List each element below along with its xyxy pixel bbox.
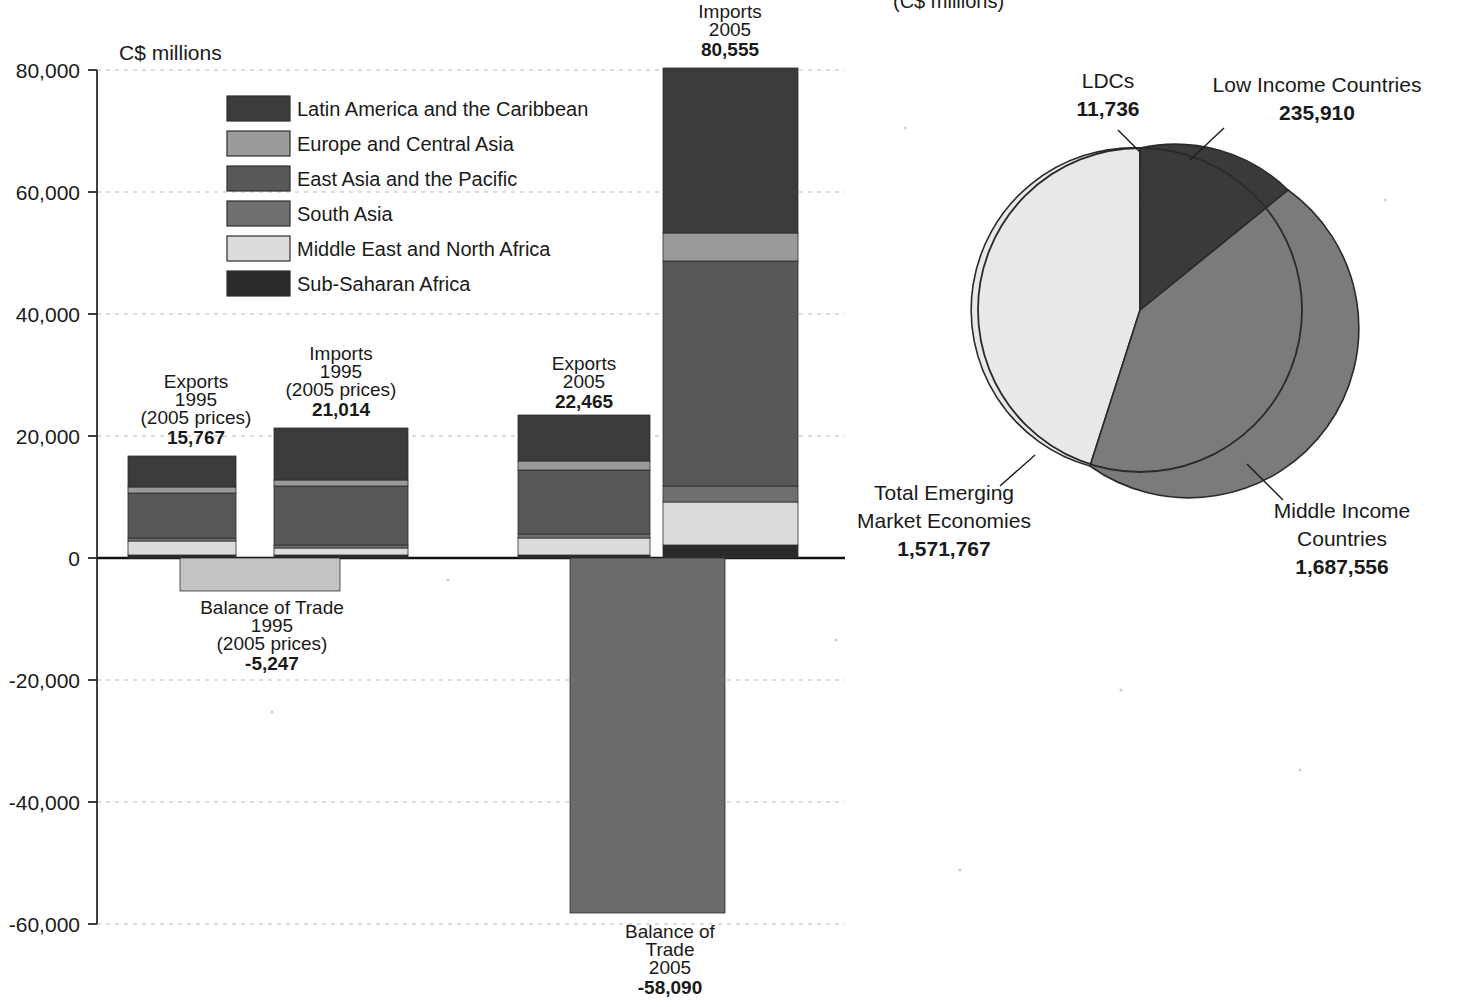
y-tick-neg20000: -20,000 <box>9 669 80 692</box>
bar-segment-south-asia <box>518 534 650 538</box>
y-tick-20000: 20,000 <box>16 425 80 448</box>
legend-swatch-middle-east-north-africa <box>227 236 290 261</box>
legend-swatch-europe-central-asia <box>227 131 290 156</box>
bar-segment-middle-east-north-africa <box>128 541 236 555</box>
bar-imports-2005[interactable]: Imports 2005 80,555 <box>663 1 798 558</box>
legend-swatch-sub-saharan-africa <box>227 271 290 296</box>
bar-segment-south-asia <box>128 538 236 541</box>
pie-label-middle-income-line2: Countries <box>1297 527 1387 550</box>
legend-item-sub-saharan-africa[interactable]: Sub-Saharan Africa <box>227 271 471 296</box>
legend-label-latin-america: Latin America and the Caribbean <box>297 98 588 120</box>
bar-net-balance-2005 <box>570 558 725 913</box>
bar-value-imports-1995: 21,014 <box>312 399 371 420</box>
bar-segment-europe-central-asia <box>274 480 408 486</box>
pie-label-ldcs-name: LDCs <box>1082 69 1135 92</box>
pie-unit-label: (C$ millions) <box>893 0 1004 12</box>
pie-label-ldcs-value: 11,736 <box>1076 97 1139 120</box>
bar-segment-europe-central-asia <box>663 233 798 261</box>
y-tick-0: 0 <box>68 547 80 570</box>
pie-label-total-emerging-value: 1,571,767 <box>897 537 990 560</box>
pie-label-middle-income-line1: Middle Income <box>1274 499 1411 522</box>
y-axis-unit-label: C$ millions <box>119 41 222 64</box>
y-tick-labels: 80,000 60,000 40,000 20,000 0 -20,000 -4… <box>9 59 80 936</box>
bar-value-imports-2005: 80,555 <box>701 39 760 60</box>
y-tick-neg40000: -40,000 <box>9 791 80 814</box>
bar-segment-sub-saharan-africa <box>274 555 408 558</box>
legend-label-middle-east-north-africa: Middle East and North Africa <box>297 238 551 260</box>
pie-label-middle-income-value: 1,687,556 <box>1295 555 1388 578</box>
bar-segment-sub-saharan-africa <box>128 555 236 558</box>
pie-chart[interactable] <box>971 144 1359 498</box>
bar-segment-middle-east-north-africa <box>274 548 408 555</box>
pie-label-total-emerging-line1: Total Emerging <box>874 481 1014 504</box>
pie-label-total-emerging-line2: Market Economies <box>857 509 1031 532</box>
bar-label-exports-1995-line3: (2005 prices) <box>141 407 252 428</box>
bar-segment-east-asia-pacific <box>274 486 408 545</box>
bar-segment-east-asia-pacific <box>128 493 236 538</box>
legend-label-east-asia-pacific: East Asia and the Pacific <box>297 168 517 190</box>
bar-segment-latin-america <box>128 456 236 487</box>
bar-net-balance-1995 <box>180 558 340 591</box>
y-tick-80000: 80,000 <box>16 59 80 82</box>
legend-swatch-east-asia-pacific <box>227 166 290 191</box>
bar-segment-south-asia <box>663 486 798 502</box>
bar-value-exports-2005: 22,465 <box>555 391 614 412</box>
bar-label-imports-1995-line3: (2005 prices) <box>286 379 397 400</box>
pie-label-ldcs: LDCs 11,736 <box>1076 69 1139 120</box>
pie-label-middle-income-countries: Middle Income Countries 1,687,556 <box>1274 499 1411 578</box>
bar-segment-sub-saharan-africa <box>663 545 798 558</box>
legend-label-sub-saharan-africa: Sub-Saharan Africa <box>297 273 471 295</box>
bar-segment-south-asia <box>274 545 408 548</box>
bar-balance-of-trade-1995[interactable]: Balance of Trade 1995 (2005 prices) -5,2… <box>180 558 344 674</box>
bar-label-exports-2005-line2: 2005 <box>563 371 605 392</box>
legend: Latin America and the Caribbean Europe a… <box>227 96 588 296</box>
y-tick-40000: 40,000 <box>16 303 80 326</box>
bar-segment-sub-saharan-africa <box>518 555 650 558</box>
legend-item-latin-america[interactable]: Latin America and the Caribbean <box>227 96 588 121</box>
bar-label-imports-2005-line2: 2005 <box>709 19 751 40</box>
bar-segment-latin-america <box>518 415 650 461</box>
y-tick-neg60000: -60,000 <box>9 913 80 936</box>
bar-segment-middle-east-north-africa <box>663 502 798 545</box>
legend-item-east-asia-pacific[interactable]: East Asia and the Pacific <box>227 166 517 191</box>
y-axis <box>88 70 97 924</box>
bar-segment-east-asia-pacific <box>518 470 650 534</box>
legend-swatch-south-asia <box>227 201 290 226</box>
y-tick-60000: 60,000 <box>16 181 80 204</box>
bar-value-balance-1995: -5,247 <box>245 653 299 674</box>
legend-label-south-asia: South Asia <box>297 203 394 225</box>
pie-label-low-income-value: 235,910 <box>1279 101 1355 124</box>
bar-imports-1995[interactable]: Imports 1995 (2005 prices) 21,014 <box>274 343 408 558</box>
bar-label-balance-2005-line3: 2005 <box>649 957 691 978</box>
bar-value-exports-1995: 15,767 <box>167 427 225 448</box>
legend-item-middle-east-north-africa[interactable]: Middle East and North Africa <box>227 236 551 261</box>
legend-item-europe-central-asia[interactable]: Europe and Central Asia <box>227 131 515 156</box>
bar-exports-1995[interactable]: Exports 1995 (2005 prices) 15,767 <box>128 371 251 558</box>
legend-label-europe-central-asia: Europe and Central Asia <box>297 133 515 155</box>
bar-label-balance-1995-line3: (2005 prices) <box>217 633 328 654</box>
bar-segment-latin-america <box>663 68 798 233</box>
bar-exports-2005[interactable]: Exports 2005 22,465 <box>518 353 650 558</box>
pie-label-low-income-countries: Low Income Countries 235,910 <box>1213 73 1422 124</box>
bar-segment-east-asia-pacific <box>663 261 798 486</box>
bar-segment-europe-central-asia <box>518 461 650 470</box>
pie-label-total-emerging-market-economies: Total Emerging Market Economies 1,571,76… <box>857 481 1031 560</box>
figure-canvas: 80,000 60,000 40,000 20,000 0 -20,000 -4… <box>0 0 1470 1007</box>
bar-segment-europe-central-asia <box>128 487 236 493</box>
bar-value-balance-2005: -58,090 <box>638 977 702 998</box>
legend-swatch-latin-america <box>227 96 290 121</box>
pie-label-low-income-name: Low Income Countries <box>1213 73 1422 96</box>
bar-segment-middle-east-north-africa <box>518 538 650 555</box>
bar-segment-latin-america <box>274 428 408 480</box>
legend-item-south-asia[interactable]: South Asia <box>227 201 394 226</box>
bar-balance-of-trade-2005[interactable]: Balance of Trade 2005 -58,090 <box>570 558 725 998</box>
